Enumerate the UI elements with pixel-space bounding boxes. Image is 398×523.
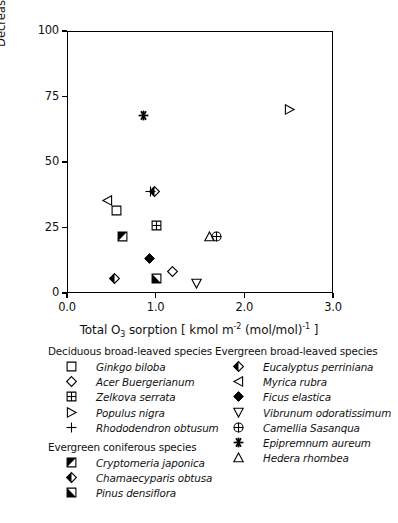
legend-item: Epipremnum aureum <box>215 436 378 451</box>
x-axis-tick-label: 3.0 <box>313 300 353 314</box>
legend-item: Populus nigra <box>48 406 212 421</box>
crossed-square-icon <box>66 391 78 403</box>
data-point-populus-nigra <box>284 104 295 115</box>
x-axis-tick <box>155 293 156 298</box>
legend-item-label: Vibrunum odoratissimum <box>263 407 391 419</box>
legend-item: Acer Buergerianum <box>48 375 212 390</box>
open-diamond-icon <box>66 376 78 388</box>
filled-diamond-icon <box>233 391 245 403</box>
half-diamond-icon <box>233 361 245 373</box>
legend-item-label: Acer Buergerianum <box>96 376 194 388</box>
legend-item-label: Ginkgo biloba <box>96 361 166 373</box>
half-diamond-icon <box>66 472 78 484</box>
x-title-mid: sorption [ kmol m <box>125 323 233 337</box>
x-axis-tick-label: 1.0 <box>136 300 176 314</box>
legend-header-deciduous: Deciduous broad-leaved species <box>48 345 212 357</box>
data-point-chamaecyparis-obtusa <box>109 273 120 284</box>
circle-plus-icon <box>233 422 245 434</box>
legend-item: Chamaecyparis obtusa <box>48 471 196 486</box>
half-square-ll-icon <box>66 487 78 499</box>
data-point-myrica-rubra <box>102 195 113 206</box>
x-axis-tick <box>244 293 245 298</box>
y-axis-tick-label: 50 <box>19 154 59 168</box>
half-square-ul-icon <box>66 457 78 469</box>
plot-area <box>67 31 333 293</box>
legend-item-label: Zelkova serrata <box>96 391 176 403</box>
legend-group-deciduous: Deciduous broad-leaved species Ginkgo bi… <box>48 345 212 436</box>
data-point-cryptomeria-japonica <box>117 231 128 242</box>
data-point-acer-buergerianum <box>167 266 178 277</box>
y-axis-tick-label: 25 <box>19 220 59 234</box>
y-axis-tick-label: 75 <box>19 89 59 103</box>
y-axis-tick-label: 100 <box>19 23 59 37</box>
data-point-ficus-elastica <box>144 253 155 264</box>
legend-item: Cryptomeria japonica <box>48 456 196 471</box>
legend-item-label: Pinus densiflora <box>96 487 176 499</box>
legend-item: Hedera rhombea <box>215 451 378 466</box>
data-point-vibrunum-odoratissimum <box>191 278 202 289</box>
open-triangle-up-icon <box>233 452 245 464</box>
open-square-icon <box>66 361 78 373</box>
legend-item: Myrica rubra <box>215 375 378 390</box>
x-axis-tick <box>332 293 333 298</box>
x-axis-tick <box>66 293 67 298</box>
legend-rows-coniferous: Cryptomeria japonicaChamaecyparis obtusa… <box>48 456 196 502</box>
legend-item-label: Rhododendron obtusum <box>96 422 219 434</box>
y-axis-tick-label: 0 <box>19 285 59 299</box>
x-axis-title: Total O3 sorption [ kmol m-2 (mol/mol)-1… <box>0 322 398 339</box>
legend-header-coniferous: Evergreen coniferous species <box>48 441 196 453</box>
legend-group-coniferous: Evergreen coniferous species Cryptomeria… <box>48 441 196 502</box>
legend-item-label: Camellia Sasanqua <box>263 422 360 434</box>
legend-item: Camellia Sasanqua <box>215 421 378 436</box>
legend-item-label: Epipremnum aureum <box>263 437 371 449</box>
data-point-eucalyptus-perriniana <box>149 186 160 197</box>
open-triangle-right-icon <box>66 407 78 419</box>
legend-item: Rhododendron obtusum <box>48 421 212 436</box>
legend-item-label: Populus nigra <box>96 407 165 419</box>
legend-item-label: Chamaecyparis obtusa <box>96 472 212 484</box>
data-point-hedera-rhombea <box>204 231 215 242</box>
legend-item: Pinus densiflora <box>48 486 196 501</box>
legend-item-label: Ficus elastica <box>263 391 331 403</box>
data-point-pinus-densiflora <box>151 273 162 284</box>
legend-item: Vibrunum odoratissimum <box>215 406 378 421</box>
asterisk-icon <box>233 437 245 449</box>
legend-item: Eucalyptus perriniana <box>215 360 378 375</box>
legend-header-evergreen: Evergreen broad-leaved species <box>215 345 378 357</box>
legend-rows-deciduous: Ginkgo bilobaAcer BuergerianumZelkova se… <box>48 360 212 436</box>
x-title-end: ] <box>310 323 318 337</box>
y-axis-title: Decrease in net photosynthesis rate [ % … <box>0 0 8 47</box>
x-axis-tick-label: 2.0 <box>224 300 264 314</box>
scatter-plot-figure: Decrease in net photosynthesis rate [ % … <box>0 0 398 523</box>
data-point-zelkova-serrata <box>151 220 162 231</box>
open-triangle-down-icon <box>233 407 245 419</box>
open-triangle-left-icon <box>233 376 245 388</box>
legend-item-label: Hedera rhombea <box>263 452 349 464</box>
legend-item: Zelkova serrata <box>48 390 212 405</box>
x-title-superscript-2: -1 <box>302 322 310 331</box>
x-axis-tick-label: 0.0 <box>47 300 87 314</box>
legend: Deciduous broad-leaved species Ginkgo bi… <box>0 345 398 523</box>
legend-item: Ficus elastica <box>215 390 378 405</box>
data-point-epipremnum-aureum <box>138 110 149 121</box>
x-title-pre: Total O <box>80 323 121 337</box>
legend-item: Ginkgo biloba <box>48 360 212 375</box>
plus-icon <box>66 422 78 434</box>
legend-rows-evergreen: Eucalyptus perrinianaMyrica rubraFicus e… <box>215 360 378 466</box>
legend-item-label: Myrica rubra <box>263 376 327 388</box>
legend-item-label: Eucalyptus perriniana <box>263 361 373 373</box>
legend-item-label: Cryptomeria japonica <box>96 457 205 469</box>
legend-group-evergreen: Evergreen broad-leaved species Eucalyptu… <box>215 345 378 466</box>
x-title-mid-2: (mol/mol) <box>241 323 302 337</box>
